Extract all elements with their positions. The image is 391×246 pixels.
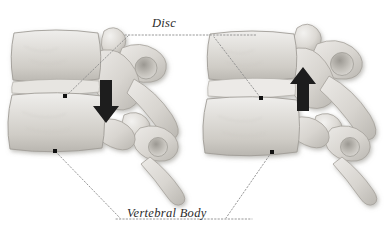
right-posterior-elements — [286, 24, 377, 205]
left-upper-vertebral-body — [11, 30, 101, 83]
body-leader-left — [56, 152, 120, 218]
left-vertebral-segment — [8, 28, 185, 205]
disc-marker-right — [259, 96, 263, 100]
vertebral-body-label: Vertebral Body — [127, 206, 207, 221]
body-leader-right — [226, 153, 271, 218]
disc-marker-left — [63, 94, 67, 98]
left-lower-vertebral-body — [8, 93, 105, 152]
body-marker-right — [270, 150, 274, 154]
disc-label: Disc — [152, 16, 176, 31]
right-upper-vertebral-body — [207, 31, 297, 82]
illustration-canvas: Disc Vertebral Body — [0, 0, 391, 246]
right-intervertebral-disc — [208, 78, 296, 98]
body-marker-left — [53, 149, 57, 153]
right-vertebral-segment — [203, 24, 377, 205]
right-lower-vertebral-body — [203, 97, 300, 156]
